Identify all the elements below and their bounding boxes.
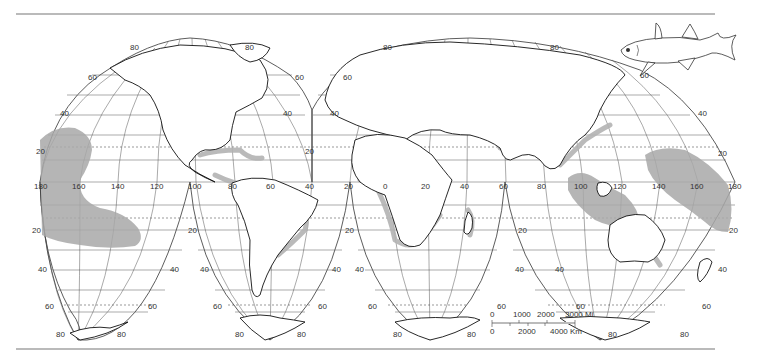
lat-label: 60 xyxy=(213,302,222,311)
fish-dorsal-fin xyxy=(655,23,662,39)
lat-label: 80 xyxy=(297,330,306,339)
scale-km-label: 0 xyxy=(490,327,495,336)
lat-label: 20 xyxy=(188,226,197,235)
lon-label: 160 xyxy=(690,182,704,191)
scale-mi-label: 1000 xyxy=(513,310,531,319)
lon-label: 180 xyxy=(34,182,48,191)
lon-label: 100 xyxy=(574,182,588,191)
lat-label: 80 xyxy=(550,43,559,52)
lat-label: 20 xyxy=(718,149,727,158)
fish-illustration xyxy=(621,23,736,76)
lat-label: 20 xyxy=(729,226,738,235)
fish-eye xyxy=(626,48,630,52)
lat-label: 80 xyxy=(608,330,617,339)
lon-label: 80 xyxy=(228,182,237,191)
lat-label: 40 xyxy=(170,265,179,274)
landmass-south-america xyxy=(232,178,318,297)
lon-label: 120 xyxy=(150,182,164,191)
lat-label: 60 xyxy=(343,73,352,82)
landmass-australia xyxy=(608,214,665,262)
lat-label: 80 xyxy=(130,43,139,52)
lat-label: 80 xyxy=(467,330,476,339)
lat-label: 80 xyxy=(117,330,126,339)
lat-label: 60 xyxy=(318,302,327,311)
lat-label: 80 xyxy=(235,330,244,339)
lon-label: 40 xyxy=(305,182,314,191)
lat-label: 40 xyxy=(200,265,209,274)
lat-label: 40 xyxy=(515,265,524,274)
lon-label: 40 xyxy=(460,182,469,191)
lat-label: 60 xyxy=(88,73,97,82)
scale-mi-label: 3000 Mi xyxy=(565,310,594,319)
lon-label: 120 xyxy=(613,182,627,191)
landmass-antarctica-2 xyxy=(240,315,305,340)
lon-label: 60 xyxy=(266,182,275,191)
lat-label: 40 xyxy=(718,265,727,274)
lat-label: 60 xyxy=(45,302,54,311)
lon-label: 140 xyxy=(652,182,666,191)
range-pacific-west xyxy=(40,128,141,248)
lat-label: 80 xyxy=(680,330,689,339)
lon-label: 100 xyxy=(188,182,202,191)
lat-label: 40 xyxy=(355,265,364,274)
lat-label: 40 xyxy=(698,109,707,118)
lat-label: 60 xyxy=(295,73,304,82)
lat-label: 80 xyxy=(383,43,392,52)
lat-label: 80 xyxy=(245,43,254,52)
lat-label: 60 xyxy=(368,302,377,311)
lon-label: 140 xyxy=(111,182,125,191)
lat-label: 40 xyxy=(38,265,47,274)
lat-label: 60 xyxy=(702,302,711,311)
world-distribution-map: 80 80 60 60 40 40 20 20 60 40 80 80 60 4… xyxy=(0,0,763,364)
scale-mi-label: 0 xyxy=(490,310,495,319)
lat-label: 40 xyxy=(283,109,292,118)
lat-label: 80 xyxy=(56,330,65,339)
lon-label: 80 xyxy=(537,182,546,191)
lat-label: 80 xyxy=(393,330,402,339)
lon-label: 20 xyxy=(421,182,430,191)
lon-label: 160 xyxy=(72,182,86,191)
landmass-new-zealand xyxy=(698,259,713,283)
lat-label: 40 xyxy=(555,265,564,274)
lon-label: 180 xyxy=(728,182,742,191)
lat-label: 60 xyxy=(497,302,506,311)
lat-label: 40 xyxy=(60,109,69,118)
lat-label: 20 xyxy=(345,226,354,235)
lat-label: 20 xyxy=(518,226,527,235)
scale-mi-label: 2000 xyxy=(537,310,555,319)
lat-label: 20 xyxy=(305,147,314,156)
landmass-north-america xyxy=(110,45,268,182)
scale-km-label: 4000 Km xyxy=(550,327,582,336)
lat-label: 20 xyxy=(32,226,41,235)
lat-label: 20 xyxy=(36,147,45,156)
scale-km-label: 2000 xyxy=(518,327,536,336)
lat-label: 60 xyxy=(148,302,157,311)
fish-dorsal-fin-2 xyxy=(682,24,698,39)
lon-label: 0 xyxy=(383,182,388,191)
lat-label: 40 xyxy=(330,109,339,118)
lon-label: 20 xyxy=(344,182,353,191)
lon-label: 60 xyxy=(499,182,508,191)
lat-label: 40 xyxy=(332,265,341,274)
